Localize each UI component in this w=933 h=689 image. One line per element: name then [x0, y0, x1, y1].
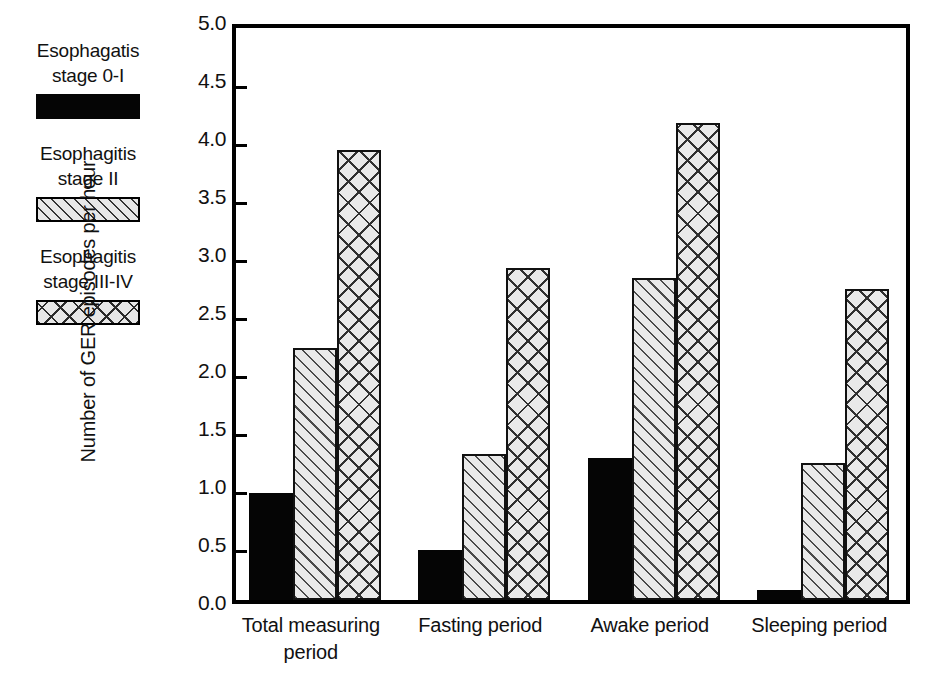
y-tick-mark	[236, 550, 247, 553]
bar	[676, 123, 720, 600]
x-axis-tick-labels: Total measuring periodFasting periodAwak…	[232, 612, 910, 682]
y-tick-label: 3.0	[166, 243, 226, 267]
y-tick-label: 2.5	[166, 301, 226, 325]
bar	[337, 150, 381, 600]
bar	[462, 454, 506, 600]
y-tick-label: 1.0	[166, 475, 226, 499]
bar	[757, 590, 801, 600]
bars-container	[236, 28, 906, 600]
plot-area	[232, 24, 910, 604]
y-tick-label: 5.0	[166, 11, 226, 35]
x-tick-label: Awake period	[555, 612, 745, 639]
bar	[293, 348, 337, 600]
y-tick-mark	[236, 492, 247, 495]
bar	[801, 463, 845, 600]
bar	[588, 458, 632, 600]
y-tick-label: 1.5	[166, 417, 226, 441]
y-tick-label: 0.5	[166, 533, 226, 557]
y-tick-mark	[236, 144, 247, 147]
y-axis-tick-labels: 5.04.54.03.53.02.52.01.51.00.50.0	[164, 24, 226, 604]
x-tick-label: Fasting period	[385, 612, 575, 639]
bar	[632, 278, 676, 600]
x-tick-label: Sleeping period	[724, 612, 914, 639]
y-tick-label: 4.0	[166, 127, 226, 151]
x-tick-label: Total measuring period	[216, 612, 406, 666]
y-tick-mark	[236, 376, 247, 379]
bar	[506, 268, 550, 600]
bar	[845, 289, 889, 600]
y-axis-title: Number of GER episodes per hour	[77, 102, 100, 522]
legend-label-stage-0-I: Esophagatis stage 0-I	[8, 38, 168, 88]
y-tick-label: 3.5	[166, 185, 226, 209]
bar	[249, 493, 293, 600]
y-tick-mark	[236, 260, 247, 263]
bar	[418, 550, 462, 600]
chart-page: Esophagatis stage 0-I Esophagitis stage …	[0, 0, 933, 689]
y-tick-mark	[236, 434, 247, 437]
y-tick-mark	[236, 202, 247, 205]
y-tick-label: 4.5	[166, 69, 226, 93]
y-tick-mark	[236, 86, 247, 89]
y-tick-mark	[236, 318, 247, 321]
y-tick-label: 2.0	[166, 359, 226, 383]
